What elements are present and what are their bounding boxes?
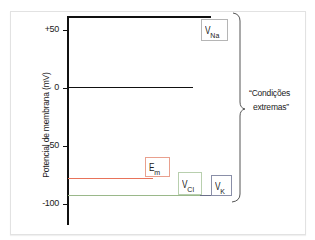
cl-label-sub: Cl bbox=[187, 186, 194, 193]
tick-minus50 bbox=[63, 146, 68, 147]
zero-level-line bbox=[68, 87, 193, 88]
k-label-sub: K bbox=[220, 188, 225, 195]
na-label-sub: Na bbox=[210, 32, 219, 39]
cl-label-box: VCl bbox=[178, 172, 202, 195]
tick-label-minus50: -50 bbox=[19, 140, 59, 150]
tick-label-0: 0 bbox=[19, 82, 59, 92]
curly-brace-icon bbox=[230, 12, 246, 204]
brace-annotation-line1: “Condições bbox=[249, 88, 290, 98]
tick-label-plus50: +50 bbox=[19, 24, 59, 34]
tick-0 bbox=[63, 88, 68, 89]
na-label-box: VNa bbox=[201, 19, 228, 41]
na-level-line bbox=[68, 16, 211, 18]
tick-plus50 bbox=[63, 30, 68, 31]
y-axis bbox=[67, 16, 69, 225]
tick-label-minus100: -100 bbox=[19, 198, 59, 208]
em-level-line bbox=[68, 178, 153, 179]
em-label-box: Em bbox=[145, 157, 170, 177]
k-label-box: VK bbox=[211, 175, 232, 196]
em-label-sub: m bbox=[154, 169, 160, 176]
brace-annotation-line2: extremas” bbox=[253, 102, 289, 112]
tick-minus100 bbox=[63, 204, 68, 205]
